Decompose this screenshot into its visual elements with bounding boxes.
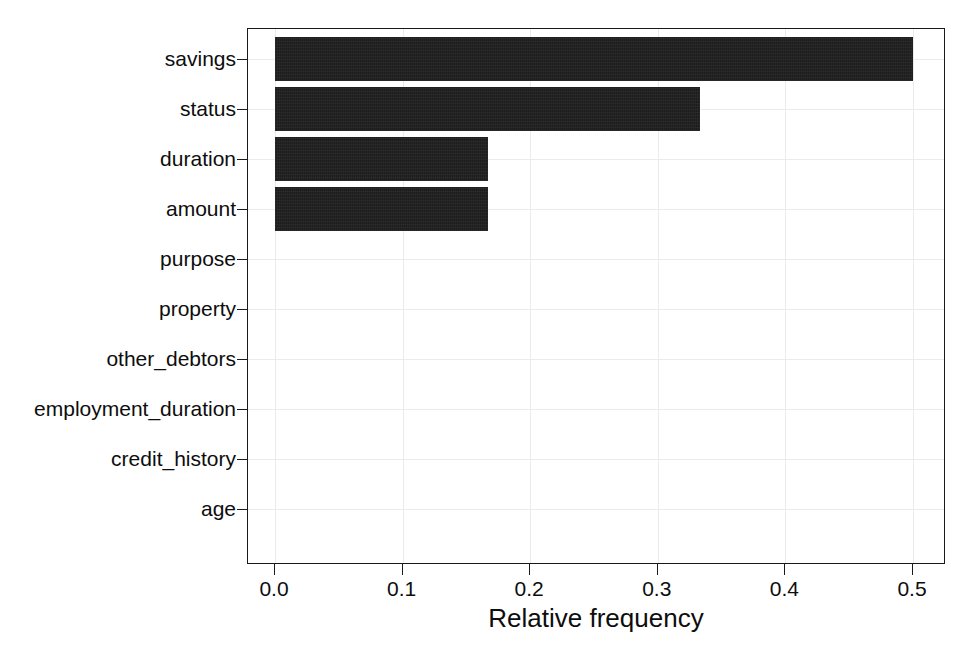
y-axis-tick-label: property bbox=[0, 298, 236, 319]
y-axis-tick bbox=[237, 409, 248, 410]
y-axis-tick-label: duration bbox=[0, 148, 236, 169]
y-axis-tick bbox=[237, 109, 248, 110]
y-axis-tick-label: credit_history bbox=[0, 448, 236, 469]
y-gridline bbox=[248, 309, 944, 310]
y-gridline bbox=[248, 259, 944, 260]
y-axis-tick bbox=[237, 259, 248, 260]
x-axis-tick-label: 0.4 bbox=[770, 577, 799, 600]
chart-figure: savingsstatusdurationamountpurposeproper… bbox=[0, 0, 970, 660]
x-axis-tick-label: 0.0 bbox=[259, 577, 288, 600]
y-axis-labels: savingsstatusdurationamountpurposeproper… bbox=[0, 28, 236, 564]
bar bbox=[275, 137, 488, 181]
y-gridline bbox=[248, 459, 944, 460]
x-axis-tick bbox=[274, 564, 275, 575]
y-axis-tick-label: other_debtors bbox=[0, 348, 236, 369]
y-axis-tick-label: purpose bbox=[0, 248, 236, 269]
y-gridline bbox=[248, 509, 944, 510]
x-axis-tick bbox=[657, 564, 658, 575]
y-axis-tick bbox=[237, 459, 248, 460]
bar bbox=[275, 37, 913, 81]
y-axis-tick-label: savings bbox=[0, 48, 236, 69]
x-axis-tick-label: 0.1 bbox=[387, 577, 416, 600]
y-axis-tick-label: amount bbox=[0, 198, 236, 219]
bar bbox=[275, 87, 700, 131]
x-axis-tick-label: 0.3 bbox=[642, 577, 671, 600]
x-axis-title: Relative frequency bbox=[247, 603, 945, 633]
y-axis-tick bbox=[237, 159, 248, 160]
bar bbox=[275, 187, 488, 231]
plot-area bbox=[248, 29, 944, 563]
y-axis-tick-label: status bbox=[0, 98, 236, 119]
y-gridline bbox=[248, 409, 944, 410]
x-axis-tick bbox=[784, 564, 785, 575]
y-gridline bbox=[248, 359, 944, 360]
x-axis-tick bbox=[912, 564, 913, 575]
y-axis-tick bbox=[237, 209, 248, 210]
y-axis-tick-label: employment_duration bbox=[0, 398, 236, 419]
x-axis-tick-label: 0.2 bbox=[515, 577, 544, 600]
x-axis-tick bbox=[529, 564, 530, 575]
plot-panel bbox=[247, 28, 945, 564]
y-axis-tick bbox=[237, 509, 248, 510]
x-axis-tick-label: 0.5 bbox=[897, 577, 926, 600]
y-axis-tick bbox=[237, 59, 248, 60]
y-axis-tick bbox=[237, 359, 248, 360]
y-axis-tick-label: age bbox=[0, 498, 236, 519]
y-axis-tick bbox=[237, 309, 248, 310]
x-axis-tick bbox=[402, 564, 403, 575]
